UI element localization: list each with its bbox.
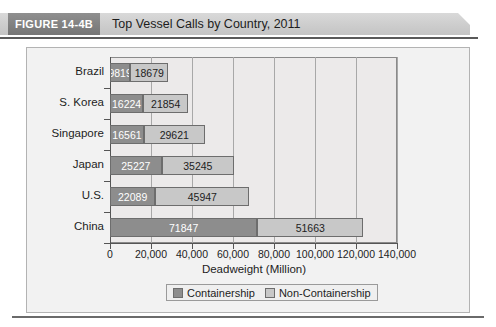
chart-gridline bbox=[192, 57, 193, 243]
chart-x-tick-label: 0 bbox=[107, 248, 113, 260]
chart-x-tick-label: 120,000 bbox=[337, 248, 375, 260]
chart-bar-row: 981918679 bbox=[110, 63, 397, 82]
chart-bar-segment: 29621 bbox=[144, 125, 205, 144]
chart-y-tick bbox=[104, 212, 110, 213]
chart-gridline bbox=[315, 57, 316, 243]
chart-plot-area: Brazil981918679S. Korea1622421854Singapo… bbox=[0, 0, 496, 327]
chart-bar-segment: 9819 bbox=[110, 63, 130, 82]
chart-bar-row: 1656129621 bbox=[110, 125, 397, 144]
chart-x-tick-label: 140,000 bbox=[378, 248, 416, 260]
chart-gridline bbox=[151, 57, 152, 243]
chart-bar-segment: 16561 bbox=[110, 125, 144, 144]
chart-x-tick-label: 40,000 bbox=[176, 248, 208, 260]
chart-y-tick bbox=[104, 181, 110, 182]
chart-category-label-text: U.S. bbox=[82, 189, 104, 201]
chart-bar-row: 2208945947 bbox=[110, 187, 397, 206]
chart-bar-segment: 35245 bbox=[162, 156, 234, 175]
chart-bar-segment: 22089 bbox=[110, 187, 155, 206]
chart-legend-swatch bbox=[265, 288, 275, 298]
chart-category-label-text: Singapore bbox=[52, 127, 104, 139]
chart-plot-frame bbox=[110, 57, 397, 243]
chart-x-axis-title: Deadweight (Million) bbox=[110, 263, 398, 275]
chart-gridline bbox=[274, 57, 275, 243]
chart-category-label-text: Japan bbox=[73, 158, 104, 170]
chart-x-tick-label: 20,000 bbox=[135, 248, 167, 260]
chart-bar-row: 2522735245 bbox=[110, 156, 397, 175]
chart-legend-label: Containership bbox=[187, 287, 255, 299]
chart-x-tick-label: 60,000 bbox=[217, 248, 249, 260]
chart-category-label-text: S. Korea bbox=[59, 96, 104, 108]
chart-bar-row: 1622421854 bbox=[110, 94, 397, 113]
figure-bottom-divider bbox=[12, 316, 484, 318]
chart-legend-item[interactable]: Non-Containership bbox=[265, 287, 371, 299]
chart-y-tick bbox=[104, 150, 110, 151]
chart-y-axis bbox=[110, 57, 111, 243]
chart-y-tick bbox=[104, 119, 110, 120]
chart-x-axis bbox=[110, 243, 398, 244]
chart-legend-swatch bbox=[173, 288, 183, 298]
chart-bar-segment: 45947 bbox=[155, 187, 249, 206]
chart-gridline bbox=[356, 57, 357, 243]
chart-bar-segment: 71847 bbox=[110, 218, 257, 237]
chart-gridline bbox=[397, 57, 398, 243]
chart-x-tick-label: 80,000 bbox=[258, 248, 290, 260]
chart-y-tick bbox=[104, 88, 110, 89]
chart-bar-segment: 16224 bbox=[110, 94, 143, 113]
chart-bar-row: 7184751663 bbox=[110, 218, 397, 237]
chart-legend: ContainershipNon-Containership bbox=[166, 284, 378, 301]
chart-category-label-text: China bbox=[74, 220, 104, 232]
chart-legend-label: Non-Containership bbox=[279, 287, 371, 299]
chart-bar-segment: 25227 bbox=[110, 156, 162, 175]
chart-gridline bbox=[233, 57, 234, 243]
chart-bar-segment: 51663 bbox=[257, 218, 363, 237]
figure-container: FIGURE 14-4B Top Vessel Calls by Country… bbox=[0, 0, 496, 327]
chart-bar-segment: 21854 bbox=[143, 94, 188, 113]
chart-bar-segment: 18679 bbox=[130, 63, 168, 82]
chart-legend-item[interactable]: Containership bbox=[173, 287, 255, 299]
chart-x-tick-label: 100,000 bbox=[296, 248, 334, 260]
chart-category-label-text: Brazil bbox=[75, 65, 104, 77]
